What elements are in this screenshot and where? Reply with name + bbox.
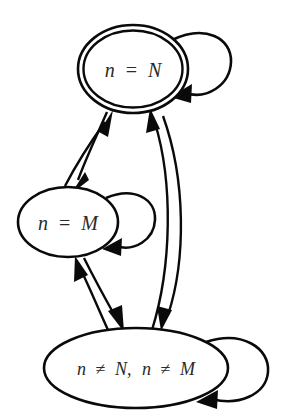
label-var-n: n: [105, 59, 115, 81]
edge-n-equals-N-to-n-not-N-not-M-path: [163, 116, 181, 315]
edge-n-equals-N-to-n-equals-M[interactable]: [71, 112, 107, 194]
node-state-n-equals-N-label: n = N: [105, 59, 163, 81]
label-operator-neq-1: ≠: [96, 359, 106, 379]
label-part-n-1: n: [77, 359, 86, 379]
edge-n-equals-N-to-n-not-N-not-M-arrowhead: [157, 306, 172, 331]
node-state-n-equals-M-label: n = M: [38, 212, 99, 234]
label-operator-neq-2: ≠: [161, 359, 171, 379]
state-diagram-canvas: n = N n = M n ≠ N, n ≠ M: [0, 0, 283, 416]
node-state-n-not-N-not-M[interactable]: n ≠ N, n ≠ M: [44, 328, 228, 408]
label-part-M: M: [179, 359, 196, 379]
label-var-M: M: [80, 212, 99, 234]
label-operator-equals: =: [126, 59, 137, 81]
label-operator-equals-2: =: [59, 212, 70, 234]
edge-n-equals-M-to-n-equals-N[interactable]: [65, 110, 113, 186]
label-part-N: N,: [114, 359, 132, 379]
label-part-n-2: n: [142, 359, 151, 379]
edge-n-not-N-not-M-to-n-equals-N[interactable]: [146, 108, 168, 330]
label-var-n-2: n: [38, 212, 48, 234]
node-state-n-equals-M[interactable]: n = M: [18, 187, 118, 257]
node-state-n-equals-N[interactable]: n = N: [78, 25, 188, 113]
state-machine-graphic: n = N n = M n ≠ N, n ≠ M: [0, 0, 283, 416]
edge-n-equals-N-to-n-equals-M-path: [78, 112, 107, 180]
label-var-N: N: [147, 59, 163, 81]
